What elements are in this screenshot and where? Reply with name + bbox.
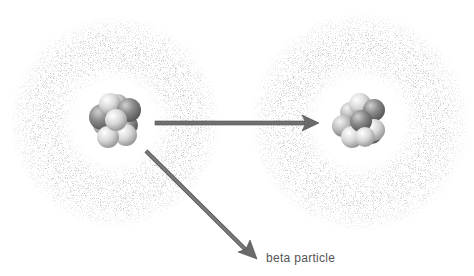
beta-decay-diagram: beta particle	[0, 0, 474, 276]
beta-particle-label: beta particle	[266, 251, 335, 265]
